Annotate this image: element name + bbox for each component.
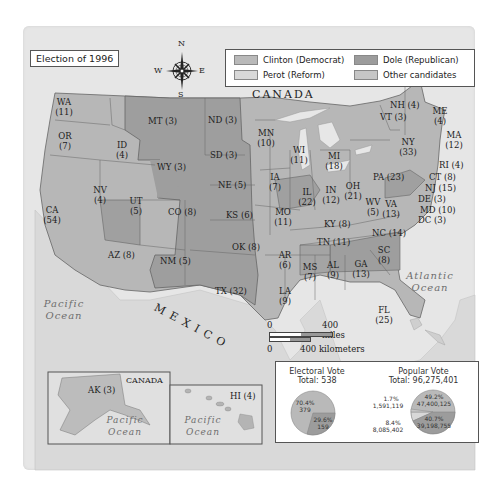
map-title: Election of 1996 (30, 50, 119, 67)
state-nv: NV (4) (90, 185, 110, 205)
legend-swatch-other (354, 70, 378, 80)
legend-dole: Dole (Republican) (354, 55, 459, 65)
compass-rose: N S E W (162, 40, 202, 100)
state-sc: SC (8) (374, 245, 394, 265)
state-ct: CT (8) (429, 172, 456, 182)
state-ky: KY (8) (324, 219, 350, 229)
state-vt: VT (3) (380, 112, 407, 122)
compass-e: E (199, 66, 205, 75)
legend-swatch-perot (234, 70, 258, 80)
state-ks: KS (6) (226, 210, 253, 220)
state-nj: NJ (15) (425, 183, 456, 193)
pv-title: Popular Vote (371, 367, 476, 376)
compass-s: S (178, 90, 183, 99)
ev-total: Total: 538 (282, 376, 352, 385)
ev-title: Electoral Vote (282, 367, 352, 376)
pv-other-val: 1,591,119 (370, 402, 406, 409)
scale-zero-bottom: 0 (267, 344, 272, 354)
state-pa: PA (23) (373, 172, 404, 182)
state-in: IN (12) (321, 185, 341, 205)
label-canada: CANADA (252, 88, 315, 101)
ev-clinton-val: 379 (293, 406, 317, 413)
state-oh: OH (21) (343, 181, 363, 201)
pv-clinton-val: 47,400,125 (414, 400, 454, 407)
state-dc: DC (3) (418, 215, 446, 225)
pv-dole-val: 39,198,755 (414, 422, 454, 429)
state-me: ME (4) (430, 106, 450, 126)
state-al: AL (9) (323, 260, 343, 280)
label-pacific-hi: Pacific Ocean (178, 414, 228, 438)
scale-km: 400 kilometers (300, 344, 365, 354)
state-wv: WV (5) (365, 197, 381, 217)
state-az: AZ (8) (108, 250, 135, 260)
state-md: MD (10) (420, 205, 456, 215)
state-la: LA (9) (275, 286, 295, 306)
pv-dole-pct: 40.7% (416, 415, 452, 422)
state-mn: MN (10) (256, 128, 276, 148)
state-ri: RI (4) (439, 160, 464, 170)
pv-other-pct: 1.7% (376, 395, 406, 402)
label-pacific-ocean: Pacific Ocean (38, 298, 90, 322)
state-ms: MS (7) (300, 262, 320, 282)
vote-pie-charts: Electoral Vote Total: 538 70.4% 379 29.6… (275, 361, 479, 443)
state-tx: TX (32) (215, 286, 247, 296)
state-ia: IA (7) (265, 172, 285, 192)
legend-swatch-dole (354, 55, 378, 65)
legend-other: Other candidates (354, 70, 456, 80)
ev-dole-pct: 29.6% (311, 416, 335, 423)
state-ga: GA (13) (351, 259, 371, 279)
state-nd: ND (3) (208, 115, 237, 125)
state-mi: MI (18) (324, 151, 344, 171)
scale-zero-top: 0 (267, 320, 272, 330)
state-fl: FL (25) (374, 305, 394, 325)
label-atlantic-ocean: Atlantic Ocean (390, 270, 470, 294)
pv-total: Total: 96,275,401 (371, 376, 476, 385)
state-co: CO (8) (168, 207, 196, 217)
state-nc: NC (14) (372, 228, 406, 238)
ev-dole-val: 159 (311, 423, 335, 430)
state-id: ID (4) (112, 140, 132, 160)
state-wi: WI (11) (289, 145, 309, 165)
legend-swatch-clinton (234, 55, 258, 65)
state-or: OR (7) (55, 131, 75, 151)
state-tn: TN (11) (317, 237, 350, 247)
label-canada-inset: CANADA (126, 376, 163, 386)
state-ny: NY (33) (398, 137, 418, 157)
state-mo: MO (11) (273, 207, 293, 227)
state-wy: WY (3) (157, 162, 186, 172)
state-mt: MT (3) (148, 116, 177, 126)
state-ak: AK (3) (88, 385, 115, 395)
compass-n: N (178, 39, 185, 48)
state-sd: SD (3) (210, 150, 237, 160)
scale-km-bar (269, 337, 311, 342)
state-ma: MA (12) (444, 130, 464, 150)
label-pacific-ak: Pacific Ocean (100, 414, 150, 438)
state-ca: CA (54) (42, 205, 62, 225)
state-nh: NH (4) (390, 100, 420, 110)
state-va: VA (13) (381, 199, 401, 219)
pv-perot-val: 8,085,402 (368, 426, 408, 433)
pv-clinton-pct: 49.2% (416, 393, 452, 400)
state-ne: NE (5) (218, 180, 246, 190)
state-wa: WA (11) (54, 97, 74, 117)
state-ut: UT (5) (126, 196, 146, 216)
legend-perot: Perot (Reform) (234, 70, 325, 80)
scale-miles: 400 miles (322, 320, 345, 340)
state-de: DE (3) (418, 194, 446, 204)
state-hi: HI (4) (230, 391, 256, 401)
legend-clinton: Clinton (Democrat) (234, 55, 344, 65)
state-nm: NM (5) (160, 256, 191, 266)
state-il: IL (22) (297, 187, 317, 207)
state-ar: AR (6) (275, 250, 295, 270)
state-ok: OK (8) (232, 242, 260, 252)
ev-clinton-pct: 70.4% (293, 399, 317, 406)
pv-perot-pct: 8.4% (380, 419, 406, 426)
compass-w: W (154, 66, 162, 75)
legend: Clinton (Democrat) Dole (Republican) Per… (225, 49, 475, 87)
